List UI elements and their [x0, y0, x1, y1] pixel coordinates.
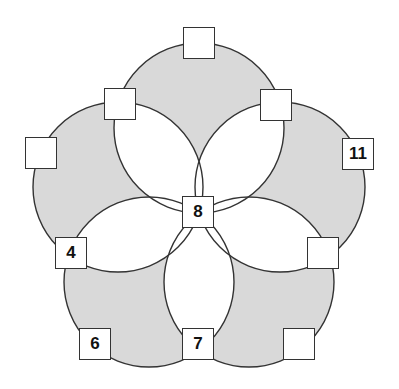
number-box-bottom-left-outer[interactable]: 6: [79, 328, 111, 360]
number-box-bottom-right-outer[interactable]: [283, 328, 315, 360]
number-box-upper-right-inner[interactable]: [260, 89, 292, 121]
number-box-right-outer[interactable]: 11: [342, 138, 374, 170]
number-box-left-outer[interactable]: [25, 137, 57, 169]
number-box-top[interactable]: [183, 27, 215, 59]
number-box-left-inner[interactable]: 4: [55, 237, 87, 269]
number-box-center[interactable]: 8: [182, 196, 214, 228]
number-box-bottom-inner[interactable]: 7: [182, 328, 214, 360]
number-box-right-inner[interactable]: [307, 237, 339, 269]
number-box-upper-left-inner[interactable]: [104, 88, 136, 120]
